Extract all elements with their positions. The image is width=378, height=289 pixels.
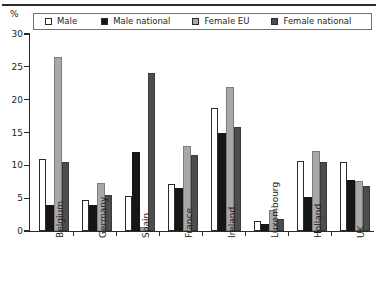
x-axis-label-spain: Spain xyxy=(142,213,151,238)
y-axis-tick-label: 10 xyxy=(1,161,23,170)
chart-legend: MaleMale nationalFemale EUFemale nationa… xyxy=(33,13,372,30)
bar-group xyxy=(30,34,374,231)
legend-swatch-female-national xyxy=(271,18,278,25)
y-axis-tick-label: 25 xyxy=(1,62,23,71)
x-axis-tick-mark xyxy=(288,231,289,236)
x-axis-label-uk: UK xyxy=(357,226,366,239)
legend-item-male[interactable]: Male xyxy=(45,17,77,26)
legend-swatch-male xyxy=(45,18,52,25)
legend-label-female-national: Female national xyxy=(283,17,351,26)
legend-label-female-eu: Female EU xyxy=(204,17,249,26)
y-axis-tick-label: 30 xyxy=(1,30,23,39)
legend-item-female-national[interactable]: Female national xyxy=(271,17,351,26)
x-axis-tick-mark xyxy=(245,231,246,236)
bar-uk-male-national[interactable] xyxy=(347,180,355,231)
legend-label-male-national: Male national xyxy=(113,17,170,26)
x-axis-label-luxembourg: Luxembourg xyxy=(271,182,280,238)
legend-swatch-male-national xyxy=(101,18,108,25)
top-divider xyxy=(2,4,376,6)
x-axis-tick-mark xyxy=(202,231,203,236)
y-axis-tick-label: 15 xyxy=(1,128,23,137)
legend-swatch-female-eu xyxy=(192,18,199,25)
y-axis-tick-label: 20 xyxy=(1,95,23,104)
x-axis-tick-mark xyxy=(159,231,160,236)
plot-area xyxy=(30,34,374,231)
x-axis-label-ireland: Ireland xyxy=(228,207,237,238)
y-axis-labels: 051015202530 xyxy=(0,0,23,289)
x-axis-tick-mark xyxy=(116,231,117,236)
x-axis-label-belgium: Belgium xyxy=(56,201,65,238)
x-axis-tick-mark xyxy=(331,231,332,236)
y-axis-tick-label: 5 xyxy=(1,194,23,203)
x-axis-label-holland: Holland xyxy=(314,204,323,238)
legend-item-male-national[interactable]: Male national xyxy=(101,17,170,26)
legend-item-female-eu[interactable]: Female EU xyxy=(192,17,249,26)
x-axis-label-germany: Germany xyxy=(99,197,108,238)
y-axis-tick-label: 0 xyxy=(1,227,23,236)
x-axis-tick-mark xyxy=(73,231,74,236)
bar-uk-male[interactable] xyxy=(340,162,348,231)
x-axis-label-france: France xyxy=(185,208,194,238)
legend-label-male: Male xyxy=(57,17,77,26)
bar-uk-female-eu[interactable] xyxy=(355,181,363,231)
